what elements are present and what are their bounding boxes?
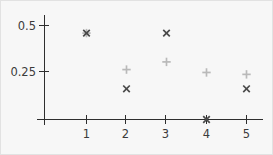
y-tick-label-0.5: 0.5 (18, 19, 36, 33)
x-tick-label-4: 4 (203, 127, 210, 141)
cross-marker-x3 (163, 30, 170, 37)
cross-series-layer (83, 30, 250, 123)
cross-marker-x5 (243, 86, 250, 93)
x-tick-label-2: 2 (122, 127, 129, 141)
x-tick-label-1: 1 (83, 127, 90, 141)
scatter-plot-figure: 0.5 0.25 1 2 3 4 5 (0, 0, 273, 155)
cross-marker-x2 (123, 86, 130, 93)
plus-marker-x4 (202, 68, 210, 76)
plus-series-layer (82, 29, 250, 79)
plus-marker-x2 (122, 65, 130, 73)
y-tick-label-0.25: 0.25 (10, 65, 36, 79)
x-tick-label-3: 3 (162, 127, 169, 141)
x-tick-label-5: 5 (243, 127, 250, 141)
plus-marker-x5 (242, 70, 250, 78)
plot-canvas: 0.5 0.25 1 2 3 4 5 (1, 1, 273, 155)
plus-marker-x3 (162, 58, 170, 66)
